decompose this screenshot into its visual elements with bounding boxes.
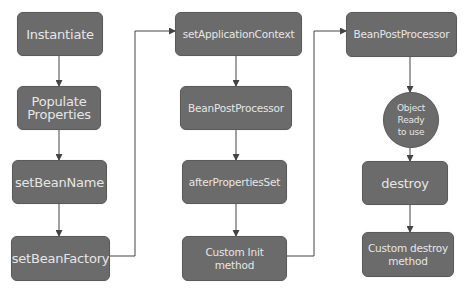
node-populate: Populate Properties <box>17 86 101 130</box>
bean-lifecycle-diagram: InstantiatePopulate PropertiessetBeanNam… <box>0 0 468 292</box>
node-bpp1: BeanPostProcessor <box>180 86 292 130</box>
node-set-bean-name: setBeanName <box>12 160 107 204</box>
edge-customInit-to-bpp2 <box>287 31 346 256</box>
node-object-ready: Object Ready to use <box>383 92 439 148</box>
node-set-bean-factory: setBeanFactory <box>11 236 110 281</box>
node-after-properties-set: afterPropertiesSet <box>182 160 287 204</box>
node-destroy: destroy <box>362 161 448 205</box>
node-custom-init: Custom Init method <box>182 236 287 281</box>
node-custom-destroy: Custom destroy method <box>362 232 454 277</box>
node-set-application-context: setApplicationContext <box>175 12 302 56</box>
edge-setBeanFactory-to-setApplicationContext <box>110 31 175 256</box>
node-bpp2: BeanPostProcessor <box>346 12 457 57</box>
node-instantiate: Instantiate <box>17 12 103 56</box>
